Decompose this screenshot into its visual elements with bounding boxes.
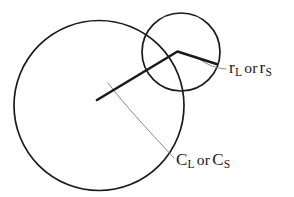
circle-conjunction: or <box>195 151 212 168</box>
radius-conjunction: or <box>242 59 259 76</box>
radius-polyline <box>97 52 217 101</box>
circle-label: CLorCS <box>176 151 230 168</box>
diagram-svg <box>0 0 294 197</box>
figure-canvas: rLorrS CLorCS <box>0 0 294 197</box>
radius-label: rLorrS <box>229 59 272 76</box>
circle-symbol-1: C <box>176 150 188 169</box>
circle-symbol-2: C <box>212 150 224 169</box>
radius-subscript-2: S <box>265 66 272 79</box>
circle-subscript-1: L <box>188 158 195 171</box>
circle-subscript-2: S <box>224 158 231 171</box>
circle-leader-line <box>108 83 174 158</box>
large-circle <box>14 21 184 191</box>
